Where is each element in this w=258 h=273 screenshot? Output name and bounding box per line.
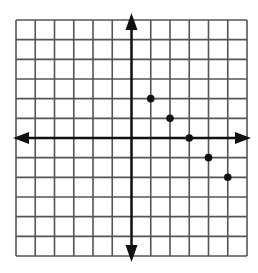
data-point <box>166 115 174 123</box>
coordinate-plane <box>0 0 258 273</box>
x-axis-right-arrow-icon <box>235 132 251 144</box>
data-point <box>224 174 232 182</box>
data-point <box>185 134 193 142</box>
axes <box>13 13 251 262</box>
data-point <box>147 95 155 103</box>
y-axis-up-arrow-icon <box>126 13 138 30</box>
data-point <box>205 154 213 162</box>
y-axis-down-arrow-icon <box>126 245 138 262</box>
